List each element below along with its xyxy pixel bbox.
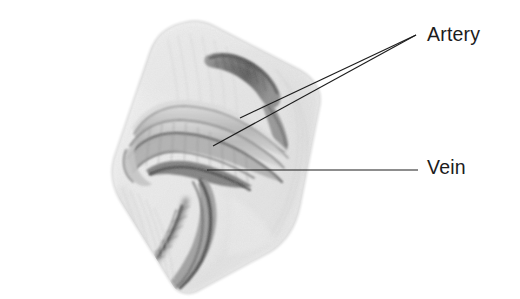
label-artery: Artery [427,25,480,45]
anatomy-figure: Artery Vein [0,0,520,299]
tissue-block [80,14,340,299]
label-vein: Vein [427,158,466,178]
